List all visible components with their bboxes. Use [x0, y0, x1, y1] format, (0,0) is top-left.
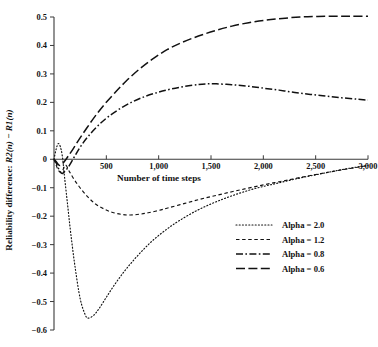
y-axis-title-prefix: Reliability difference: [4, 163, 14, 251]
reliability-difference-chart: 0.50.40.30.20.10−0.1−0.2−0.3−0.4−0.5−0.6… [0, 0, 378, 347]
y-axis-title-minus: − [4, 131, 14, 141]
y-axis-tick-label: −0.2 [32, 212, 47, 221]
axis-titles: Number of time stepsReliability differen… [4, 109, 201, 250]
x-axis-tick-label: 1,000 [149, 162, 168, 171]
y-axis-tick-label: −0.6 [32, 326, 47, 335]
x-axis-tick-label: 500 [100, 162, 113, 171]
y-axis-tick-label: −0.1 [32, 184, 47, 193]
chart-legend: Alpha = 2.0Alpha = 1.2Alpha = 0.8Alpha =… [236, 220, 325, 274]
y-axis-tick-label: 0.3 [37, 70, 47, 79]
y-axis-tick-label: 0 [43, 155, 47, 164]
y-axis: 0.50.40.30.20.10−0.1−0.2−0.3−0.4−0.5−0.6 [32, 13, 54, 335]
x-axis-title: Number of time steps [117, 173, 201, 183]
y-axis-tick-label: −0.5 [32, 298, 47, 307]
legend-label-3: Alpha = 0.6 [282, 264, 325, 274]
x-axis-tick-label: 2,000 [254, 162, 273, 171]
y-axis-tick-label: 0.5 [37, 13, 47, 22]
x-axis: 5001,0001,5002,0002,5003,000 [54, 155, 377, 171]
chart-canvas: 0.50.40.30.20.10−0.1−0.2−0.3−0.4−0.5−0.6… [0, 0, 378, 347]
y-axis-title-term2: R1(n) [4, 109, 14, 132]
y-axis-tick-label: 0.2 [37, 98, 47, 107]
y-axis-title-term1: R2(n) [4, 141, 14, 164]
data-curve-alpha-0.8 [54, 84, 368, 174]
legend-label-1: Alpha = 1.2 [282, 235, 324, 245]
y-axis-tick-label: −0.3 [32, 241, 47, 250]
y-axis-tick-label: 0.1 [37, 127, 47, 136]
y-axis-title: Reliability difference: R2(n) − R1(n) [4, 109, 14, 250]
y-axis-tick-label: −0.4 [32, 269, 48, 278]
data-curve-alpha-0.6 [54, 16, 368, 165]
legend-label-0: Alpha = 2.0 [282, 220, 324, 230]
y-axis-tick-label: 0.4 [37, 41, 48, 50]
legend-label-2: Alpha = 0.8 [282, 249, 325, 259]
x-axis-tick-label: 1,500 [202, 162, 221, 171]
x-axis-tick-label: 2,500 [306, 162, 325, 171]
